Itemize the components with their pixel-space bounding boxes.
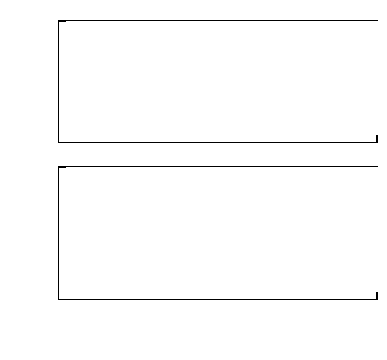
bar-series-top: [58, 20, 378, 143]
bar-series-bottom: [58, 166, 378, 300]
chart-panel-top: [58, 20, 378, 143]
x-axis: [58, 300, 378, 340]
figure: [0, 0, 387, 360]
y-axis-title: [2, 0, 32, 360]
chart-panel-bottom: [58, 166, 378, 300]
